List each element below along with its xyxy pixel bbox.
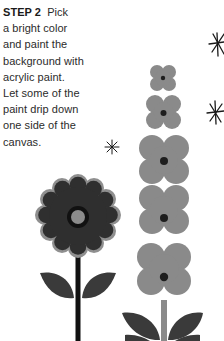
gray-flower-medium (146, 95, 181, 129)
sparkle-star-icon (209, 33, 224, 56)
painting-illustration (0, 0, 224, 341)
gray-flower-small (150, 65, 176, 91)
sparkle-star-icon (105, 140, 119, 154)
tall-gray-flower-stalk (122, 65, 203, 341)
leaf-right (82, 272, 116, 298)
black-stem (76, 255, 81, 341)
dark-daisy-flower (35, 174, 121, 341)
gray-stem (161, 300, 167, 341)
gray-flower-large (139, 185, 189, 234)
flower-center (71, 210, 85, 224)
sparkle-star-icon (207, 101, 224, 124)
leaf-left (40, 272, 74, 298)
gray-flower-large (139, 135, 189, 184)
gray-flower-large (137, 243, 191, 295)
